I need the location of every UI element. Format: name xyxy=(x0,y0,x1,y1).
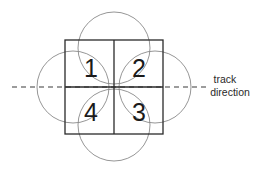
quadrant-label-4: 4 xyxy=(84,98,98,126)
quadrant-label-1: 1 xyxy=(84,54,98,82)
quadrant-labels: 1 2 3 4 xyxy=(84,54,146,126)
track-direction-label: track direction xyxy=(209,73,251,98)
track-label-line2: direction xyxy=(210,86,250,98)
quadrant-label-2: 2 xyxy=(132,54,146,82)
track-label-line1: track xyxy=(214,73,238,85)
footprint-diagram: 1 2 3 4 track direction xyxy=(0,0,262,170)
quadrant-grid xyxy=(65,40,163,134)
quadrant-label-3: 3 xyxy=(132,98,146,126)
